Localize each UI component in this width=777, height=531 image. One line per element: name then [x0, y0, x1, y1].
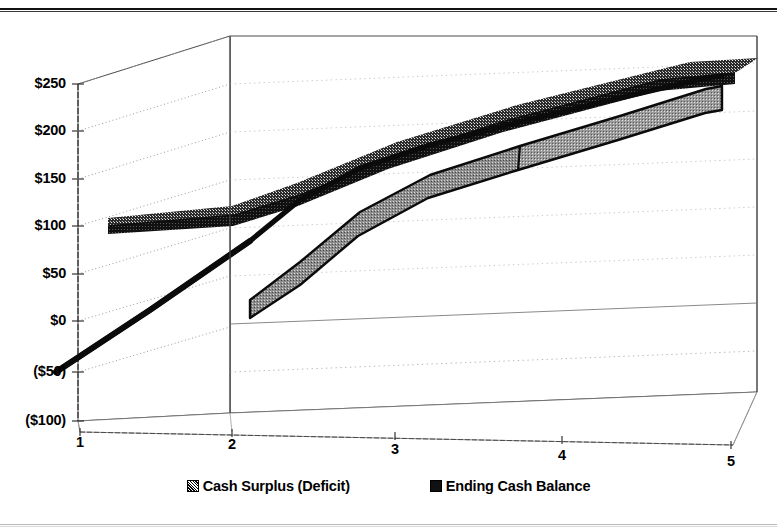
y-tick-label-100: $100: [0, 217, 66, 233]
y-tick-label-50: $50: [0, 265, 66, 281]
y-tick-label-200: $200: [0, 122, 66, 138]
x-tick-label-5: 5: [717, 453, 745, 469]
x-tick-label-2: 2: [218, 436, 246, 452]
legend-item-ending-cash-balance[interactable]: Ending Cash Balance: [430, 478, 590, 494]
legend-label-cash-surplus-deficit: Cash Surplus (Deficit): [203, 478, 350, 494]
back-wall: [230, 36, 757, 413]
chart-root: $250 $200 $150 $100 $50 $0 ($50) ($100) …: [0, 0, 777, 531]
x-tick-label-3: 3: [381, 441, 409, 457]
legend-item-cash-surplus-deficit[interactable]: Cash Surplus (Deficit): [187, 478, 350, 494]
y-tick-label-150: $150: [0, 170, 66, 186]
y-tick-label-250: $250: [0, 75, 66, 91]
hatched-square-icon: [187, 480, 199, 492]
y-tick-label-neg100: ($100): [0, 412, 66, 428]
y-tick-label-neg50: ($50): [0, 363, 66, 379]
solid-square-icon: [430, 480, 442, 492]
chart-legend: Cash Surplus (Deficit) Ending Cash Balan…: [0, 474, 777, 498]
chart-3d-walls: [78, 36, 757, 445]
legend-label-ending-cash-balance: Ending Cash Balance: [446, 478, 590, 494]
y-tick-label-0: $0: [0, 312, 66, 328]
x-tick-label-1: 1: [66, 434, 94, 450]
x-tick-label-4: 4: [548, 447, 576, 463]
